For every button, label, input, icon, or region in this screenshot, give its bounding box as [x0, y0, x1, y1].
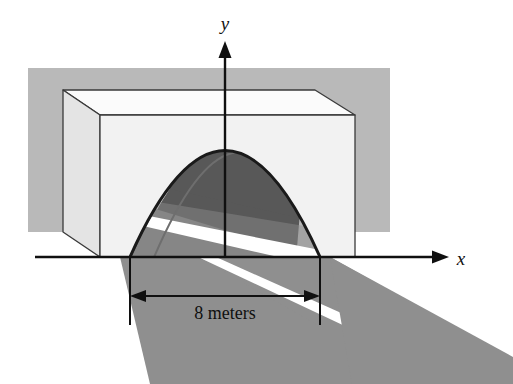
road-right-edge — [330, 257, 513, 384]
x-axis-label: x — [456, 248, 466, 269]
box-left-face — [63, 90, 100, 257]
y-axis-label: y — [219, 13, 230, 34]
dimension-label: 8 meters — [194, 303, 255, 323]
y-axis-arrowhead — [219, 41, 232, 58]
road-group — [120, 257, 513, 384]
x-axis-arrowhead — [432, 251, 449, 264]
figure-container: x y 8 meters — [0, 0, 513, 384]
box-top-face — [63, 90, 355, 115]
tunnel-diagram: x y 8 meters — [0, 0, 513, 384]
